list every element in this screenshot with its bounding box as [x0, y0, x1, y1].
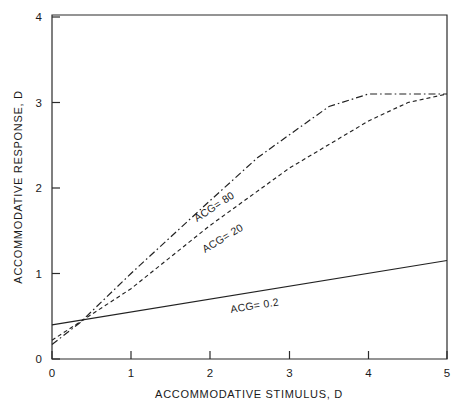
y-tick-label-0: 0 — [36, 353, 42, 365]
x-tick-label-2: 2 — [207, 367, 213, 379]
y-tick-label-4: 4 — [36, 11, 43, 23]
x-tick-label-0: 0 — [49, 367, 55, 379]
y-tick-label-3: 3 — [36, 97, 42, 109]
x-tick-label-5: 5 — [444, 367, 450, 379]
x-tick-label-4: 4 — [365, 367, 372, 379]
y-tick-label-2: 2 — [36, 182, 42, 194]
y-axis-title: ACCOMMODATIVE RESPONSE, D — [12, 90, 24, 283]
accommodation-response-chart: 4 3 2 1 0 0 1 2 3 4 5 ACCOMMODATIVE STIM… — [0, 0, 461, 410]
y-tick-label-1: 1 — [36, 268, 42, 280]
x-axis-title: ACCOMMODATIVE STIMULUS, D — [155, 388, 343, 400]
chart-background — [0, 0, 461, 410]
x-tick-label-1: 1 — [128, 367, 134, 379]
x-tick-label-3: 3 — [286, 367, 292, 379]
